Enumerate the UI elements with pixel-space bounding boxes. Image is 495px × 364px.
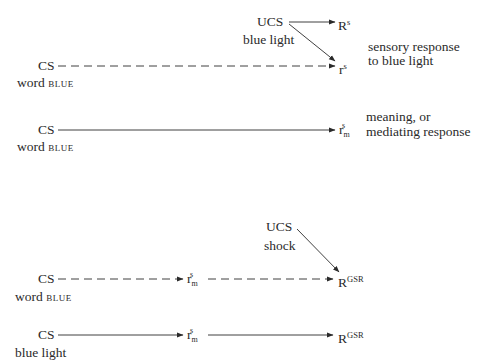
mediating-response-rsm: rsm: [187, 272, 198, 288]
ucs-shock-to-rgsr-diagonal-arrow: [297, 229, 339, 272]
annotation-line-2: to blue light: [368, 54, 433, 68]
gsr-response: RGSR: [338, 272, 364, 290]
unconditioned-response-Rs: Rs: [338, 15, 350, 33]
ucs-stimulus-label: blue light: [243, 33, 294, 47]
ucs-label: UCS: [266, 220, 292, 234]
cs-label: CS: [38, 59, 55, 73]
cs-stimulus-label: blue light: [15, 346, 66, 360]
cs-stimulus-label: word blue: [15, 290, 72, 304]
cs-label: CS: [38, 328, 55, 342]
ucs-label: UCS: [257, 15, 283, 29]
annotation-line-2: mediating response: [366, 125, 471, 139]
gsr-response: RGSR: [338, 328, 364, 346]
cs-stimulus-label: word blue: [17, 76, 74, 90]
mediating-response-rsm: rsm: [187, 328, 198, 344]
mediating-response-rsm: rsm: [339, 123, 350, 139]
annotation-line-1: meaning, or: [366, 110, 430, 124]
cs-stimulus-label: word blue: [17, 140, 74, 154]
ucs-to-rs-diagonal-arrow: [289, 24, 335, 61]
conditioned-response-rs: rs: [339, 59, 347, 77]
cs-label: CS: [38, 272, 55, 286]
ucs-stimulus-label: shock: [264, 239, 296, 253]
cs-label: CS: [38, 123, 55, 137]
annotation-line-1: sensory response: [368, 40, 460, 54]
